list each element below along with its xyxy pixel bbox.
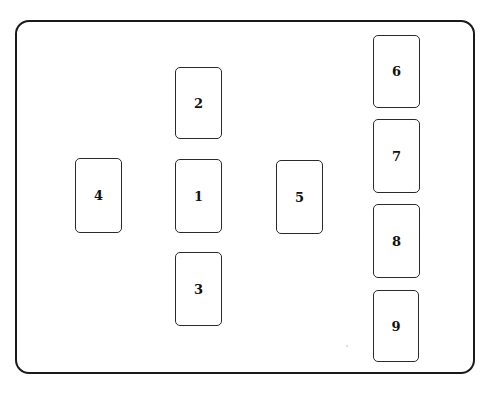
card-position-3[interactable]: 3 [175,252,222,326]
card-position-6[interactable]: 6 [373,35,420,108]
card-label-2: 2 [194,97,203,110]
card-position-4[interactable]: 4 [75,158,122,233]
scan-speck [346,345,348,347]
card-label-3: 3 [194,283,203,296]
card-label-1: 1 [194,190,203,203]
card-position-7[interactable]: 7 [373,119,420,193]
card-label-7: 7 [392,150,401,163]
card-position-1[interactable]: 1 [175,159,222,233]
card-position-5[interactable]: 5 [276,160,323,234]
card-position-9[interactable]: 9 [373,290,419,362]
card-label-8: 8 [392,235,401,248]
card-label-5: 5 [295,191,304,204]
card-label-4: 4 [94,189,103,202]
card-position-2[interactable]: 2 [175,67,222,139]
card-position-8[interactable]: 8 [373,204,420,278]
card-label-6: 6 [392,65,401,78]
card-label-9: 9 [391,320,400,333]
